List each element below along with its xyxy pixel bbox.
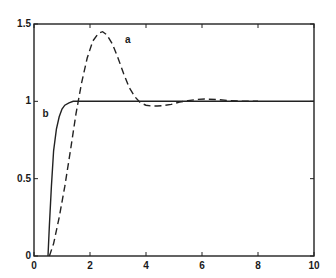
y-tick-label: 1.5	[17, 18, 31, 29]
series-a-dashed-curve	[49, 32, 258, 256]
step-response-chart: 0246810 00.511.5 a b	[0, 0, 336, 278]
x-axis-ticks: 0246810	[31, 24, 320, 271]
x-tick-label: 8	[255, 260, 261, 271]
x-tick-label: 0	[31, 260, 37, 271]
curve-label-a: a	[125, 34, 131, 45]
x-tick-label: 4	[143, 260, 149, 271]
y-tick-label: 0.5	[17, 173, 31, 184]
x-tick-label: 2	[87, 260, 93, 271]
y-axis-ticks: 00.511.5	[17, 18, 314, 261]
y-tick-label: 0	[25, 250, 31, 261]
x-tick-label: 6	[199, 260, 205, 271]
curve-label-b: b	[42, 108, 48, 119]
y-tick-label: 1	[25, 95, 31, 106]
x-tick-label: 10	[308, 260, 320, 271]
series-b-solid-curve	[48, 101, 314, 256]
plot-frame	[34, 24, 314, 256]
